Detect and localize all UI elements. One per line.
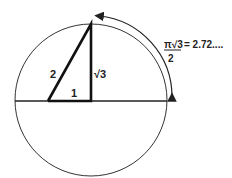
circle-diagram: 2 √3 1 π√3 = 2.72.... 2 <box>0 0 232 178</box>
arc-equals-value: = 2.72.... <box>184 39 223 50</box>
right-triangle <box>48 24 91 101</box>
arc-denominator: 2 <box>168 53 174 64</box>
vertical-leg-label: √3 <box>94 68 106 80</box>
arc-numerator: π√3 <box>164 39 183 50</box>
base-label: 1 <box>71 87 77 99</box>
arc-arrow <box>99 16 172 97</box>
hypotenuse-label: 2 <box>50 68 56 80</box>
